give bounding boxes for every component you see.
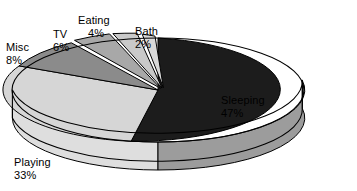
slice-label-bath: Bath 2% [135, 25, 158, 50]
slice-label-tv: TV 6% [53, 28, 69, 53]
slice-label-bath-percent: 2% [135, 38, 158, 51]
pie-chart: Sleeping 47% Playing 33% Misc 8% TV 6% E… [0, 0, 357, 191]
slice-label-playing-percent: 33% [14, 169, 51, 182]
slice-label-sleeping: Sleeping 47% [221, 94, 265, 119]
slice-label-bath-name: Bath [135, 25, 158, 37]
slice-label-misc-name: Misc [6, 41, 29, 53]
slice-label-misc-percent: 8% [6, 54, 29, 67]
slice-label-eating-percent: 4% [88, 27, 110, 40]
slice-label-eating-name: Eating [78, 14, 110, 26]
slice-label-playing-name: Playing [14, 156, 51, 168]
slice-label-tv-percent: 6% [53, 41, 69, 54]
slice-label-sleeping-name: Sleeping [221, 94, 265, 106]
slice-label-playing: Playing 33% [14, 156, 51, 181]
slice-label-sleeping-percent: 47% [221, 107, 265, 120]
slice-label-misc: Misc 8% [6, 41, 29, 66]
slice-label-eating: Eating 4% [78, 14, 110, 39]
slice-label-tv-name: TV [53, 28, 67, 40]
